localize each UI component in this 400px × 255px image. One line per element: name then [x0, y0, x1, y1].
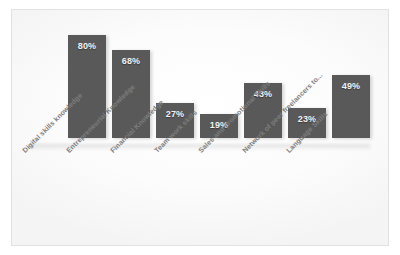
bar-data-label: 68%	[112, 56, 150, 66]
chart-frame: 80% 68% 27% 19% 43%	[11, 9, 389, 246]
bar-data-label: 80%	[68, 41, 106, 51]
bar-data-label: 49%	[332, 81, 370, 91]
bar-rect[interactable]: 49%	[332, 75, 370, 138]
category-axis: Digital skills knowledge Entrepreneurial…	[12, 146, 390, 246]
bar-rect[interactable]: 68%	[112, 50, 150, 138]
